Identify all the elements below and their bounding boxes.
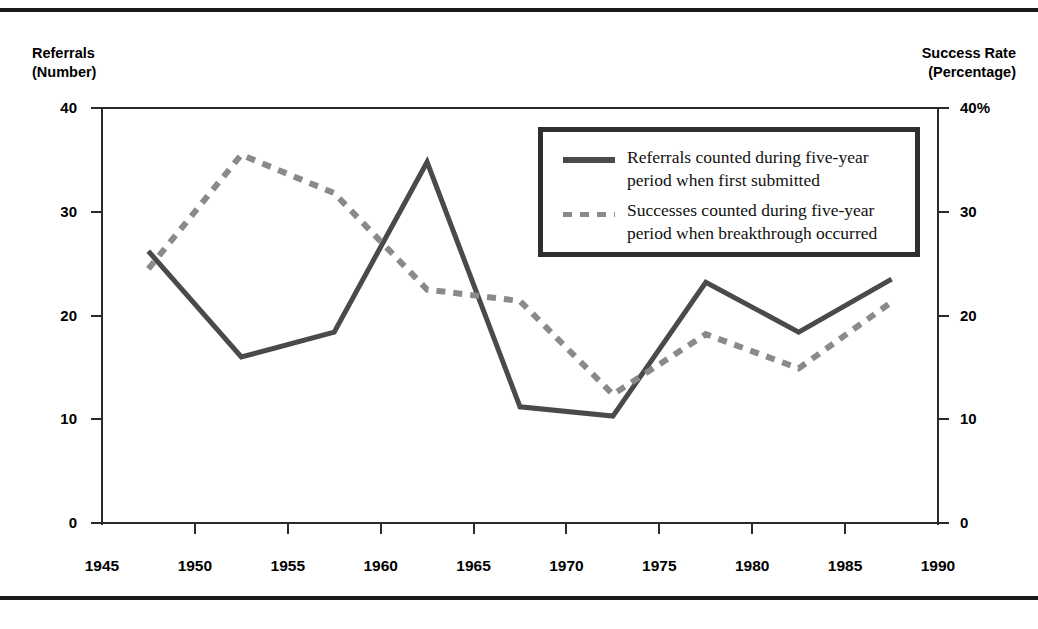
y-tick-label-left: 40 [17, 100, 77, 115]
y-tick-label-right: 30 [960, 204, 1020, 219]
top-rule [0, 8, 1038, 12]
y-tick-mark-right [938, 522, 949, 524]
series-plot-area [0, 0, 1038, 629]
x-tick-label: 1970 [531, 558, 601, 574]
plot-axis-top [101, 107, 939, 109]
legend-item-successes: Successes counted during five-year perio… [561, 199, 877, 245]
x-tick-label: 1960 [346, 558, 416, 574]
x-tick-label: 1980 [717, 558, 787, 574]
y-tick-mark-left [91, 418, 102, 420]
x-tick-mark [194, 524, 196, 534]
y-tick-mark-left [91, 522, 102, 524]
x-tick-label: 1975 [624, 558, 694, 574]
legend-label-referrals: Referrals counted during five-year perio… [627, 146, 869, 192]
x-tick-mark [565, 524, 567, 534]
x-tick-label: 1990 [903, 558, 973, 574]
x-tick-mark [380, 524, 382, 534]
x-tick-mark [751, 524, 753, 534]
y-tick-label-left: 30 [17, 204, 77, 219]
x-tick-mark [658, 524, 660, 534]
x-tick-label: 1965 [439, 558, 509, 574]
y-tick-mark-right [938, 418, 949, 420]
legend-label-successes: Successes counted during five-year perio… [627, 199, 877, 245]
right-axis-title: Success Rate (Percentage) [922, 44, 1016, 82]
y-tick-label-left: 10 [17, 411, 77, 426]
y-tick-mark-left [91, 211, 102, 213]
chart-figure: Referrals (Number) Success Rate (Percent… [0, 0, 1038, 629]
y-tick-label-right: 0 [960, 515, 1020, 530]
y-tick-mark-left [91, 107, 102, 109]
y-tick-mark-left [91, 315, 102, 317]
x-tick-mark [287, 524, 289, 534]
chart-legend: Referrals counted during five-year perio… [538, 127, 920, 257]
y-tick-label-right: 10 [960, 411, 1020, 426]
y-tick-label-right: 40% [960, 100, 1020, 115]
x-tick-mark [473, 524, 475, 534]
legend-item-referrals: Referrals counted during five-year perio… [561, 146, 869, 192]
plot-axis-bottom [101, 522, 939, 524]
y-tick-mark-right [938, 315, 949, 317]
y-tick-label-right: 20 [960, 308, 1020, 323]
x-tick-label: 1950 [160, 558, 230, 574]
legend-solid-line-icon [561, 146, 619, 174]
x-tick-mark [844, 524, 846, 534]
y-tick-label-left: 20 [17, 308, 77, 323]
y-tick-mark-right [938, 107, 949, 109]
y-tick-label-left: 0 [17, 515, 77, 530]
y-tick-mark-right [938, 211, 949, 213]
left-axis-title: Referrals (Number) [32, 44, 96, 82]
bottom-rule [0, 596, 1038, 600]
x-tick-label: 1945 [67, 558, 137, 574]
x-tick-label: 1955 [253, 558, 323, 574]
legend-dashed-line-icon [561, 199, 619, 227]
x-tick-label: 1985 [810, 558, 880, 574]
